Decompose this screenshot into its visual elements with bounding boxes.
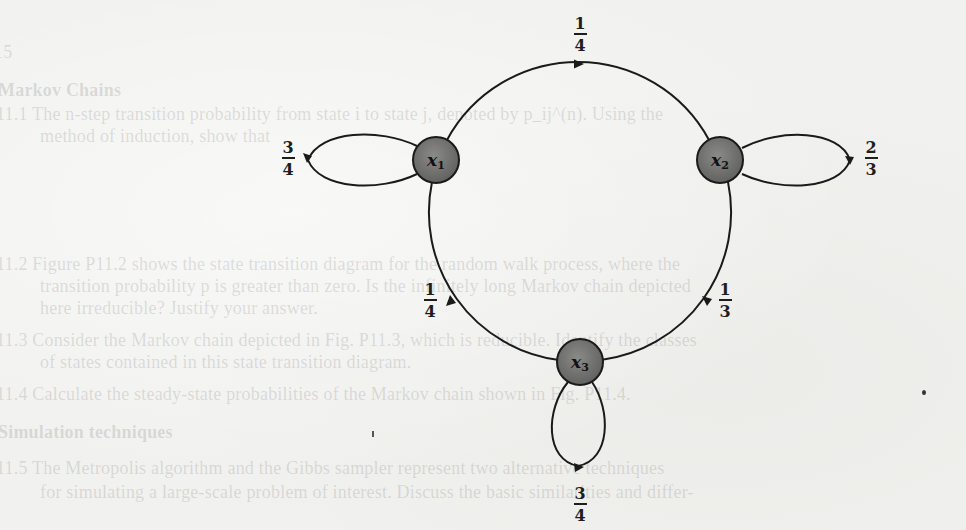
prob-label-x3-x3: 34 <box>571 485 589 524</box>
arrow-icon <box>574 60 584 69</box>
self-loop-x2 <box>742 135 850 186</box>
markov-chain-diagram <box>0 0 966 530</box>
node-x1-label: x1 <box>413 137 459 189</box>
textbook-page: 15 Markov Chains 11.1 The n-step transit… <box>0 0 966 530</box>
edge-x3-to-x1 <box>429 182 559 360</box>
ink-speck <box>372 431 374 437</box>
prob-label-x3-x1: 14 <box>421 281 439 320</box>
arrow-icon <box>702 296 712 306</box>
prob-label-x2-x2: 23 <box>862 139 880 178</box>
node-x2-label: x2 <box>697 137 743 189</box>
self-loop-x1 <box>308 134 417 185</box>
self-loop-x3 <box>552 382 605 466</box>
prob-label-x2-x3: 13 <box>716 281 734 320</box>
prob-label-x1-x2: 14 <box>571 15 589 54</box>
ink-speck <box>922 390 926 395</box>
edge-x2-to-x3 <box>601 182 731 360</box>
edge-x1-to-x2 <box>447 62 709 140</box>
arrow-icon <box>845 156 854 165</box>
node-x3-label: x3 <box>557 339 603 391</box>
prob-label-x1-x1: 34 <box>279 139 297 178</box>
